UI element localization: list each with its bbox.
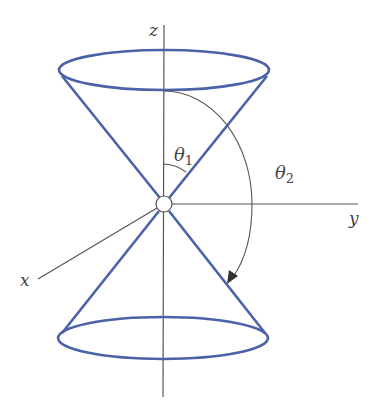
theta2-subscript: 2: [286, 171, 294, 186]
theta2-symbol: θ: [275, 162, 286, 183]
y-axis-label: y: [348, 208, 359, 228]
theta1-subscript: 1: [185, 153, 193, 168]
z-axis-label: z: [148, 20, 159, 40]
theta1-label: θ1: [174, 144, 193, 168]
double-cone-diagram: z y x θ1 θ2: [0, 0, 379, 414]
origin-point: [156, 196, 172, 212]
x-axis: [38, 208, 157, 279]
theta1-symbol: θ: [174, 144, 185, 165]
bottom-cone-left-edge: [62, 211, 159, 333]
x-axis-label: x: [20, 270, 30, 290]
theta2-arc: [164, 91, 252, 277]
theta2-label: θ2: [275, 162, 294, 186]
top-cone-left-edge: [62, 76, 160, 198]
theta1-arc: [164, 164, 186, 172]
